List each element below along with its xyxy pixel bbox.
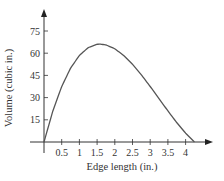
axes — [30, 9, 213, 153]
svg-text:15: 15 — [30, 114, 40, 125]
svg-text:2.5: 2.5 — [126, 147, 139, 158]
volume-chart: 0.511.522.533.54 1530456075 Edge length … — [0, 0, 224, 181]
svg-text:4: 4 — [183, 147, 188, 158]
x-axis-label: Edge length (in.) — [87, 161, 158, 173]
svg-text:3.5: 3.5 — [162, 147, 175, 158]
svg-text:1: 1 — [77, 147, 82, 158]
svg-text:2: 2 — [112, 147, 117, 158]
svg-text:1.5: 1.5 — [91, 147, 104, 158]
svg-text:0.5: 0.5 — [55, 147, 68, 158]
volume-curve — [44, 44, 194, 142]
svg-text:3: 3 — [148, 147, 153, 158]
svg-text:75: 75 — [30, 26, 40, 37]
svg-text:60: 60 — [30, 48, 40, 59]
svg-text:30: 30 — [30, 92, 40, 103]
y-axis-ticks: 1530456075 — [30, 26, 48, 126]
svg-text:45: 45 — [30, 70, 40, 81]
y-axis-label: Volume (cubic in.) — [3, 48, 15, 127]
